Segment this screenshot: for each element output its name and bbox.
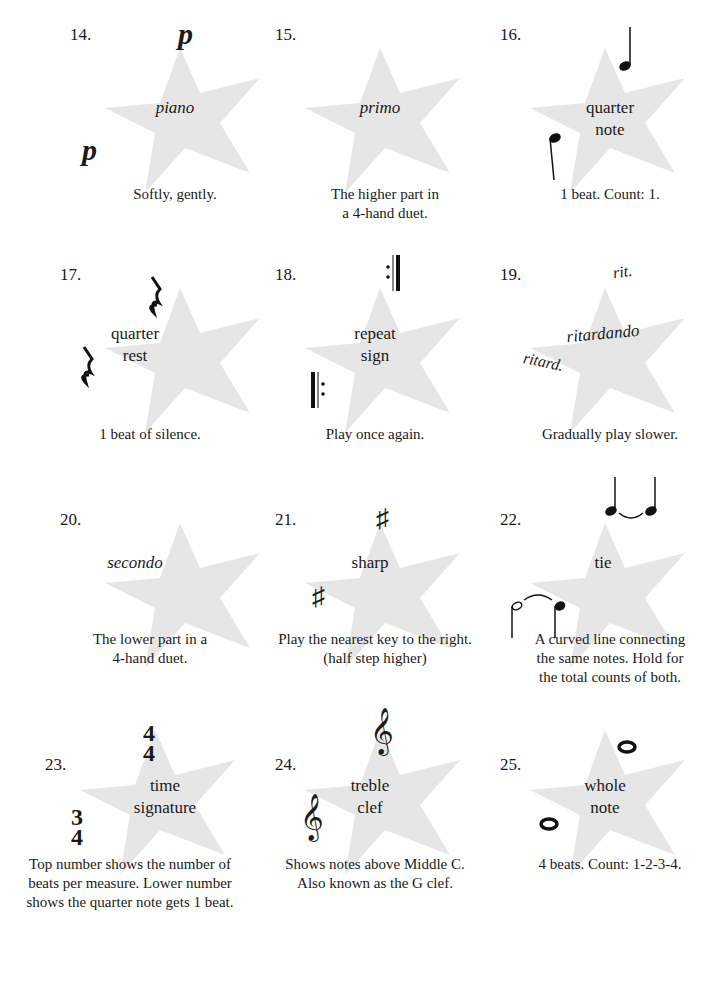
tie-quarter-notes-icon xyxy=(605,475,665,520)
item-number: 20. xyxy=(60,510,81,530)
description: Top number shows the number ofbeats per … xyxy=(0,855,260,912)
item-number: 21. xyxy=(275,510,296,530)
card-ritardando: 19. rit. ritard. ritardando Gradually pl… xyxy=(495,265,719,500)
treble-clef-icon: 𝄞 xyxy=(370,707,394,754)
item-number: 24. xyxy=(275,755,296,775)
description: Softly, gently. xyxy=(60,185,290,204)
description: Play the nearest key to the right.(half … xyxy=(260,630,490,668)
item-number: 16. xyxy=(500,25,521,45)
item-number: 14. xyxy=(70,25,91,45)
star-shape xyxy=(300,43,470,203)
star-shape xyxy=(100,43,270,203)
item-number: 19. xyxy=(500,265,521,285)
term: wholenote xyxy=(545,775,665,819)
piano-dynamic-icon: p xyxy=(82,133,97,167)
card-primo: 15. primo The higher part ina 4-hand due… xyxy=(270,25,500,260)
term: quarternote xyxy=(550,97,670,141)
time-signature-4-4-icon: 44 xyxy=(143,723,155,763)
card-whole-note: 25. wholenote 4 beats. Count: 1-2-3-4. xyxy=(495,755,719,981)
description: A curved line connectingthe same notes. … xyxy=(495,630,719,687)
term: secondo xyxy=(75,552,195,574)
card-repeat-sign: 18. repeatsign Play once again. xyxy=(270,265,500,500)
rit-marking: rit. xyxy=(612,262,633,282)
term: repeatsign xyxy=(315,323,435,367)
whole-note-icon xyxy=(617,740,637,754)
end-repeat-icon xyxy=(385,253,403,293)
item-number: 23. xyxy=(45,755,66,775)
card-tie: 22. tie A curved line connectingthe same… xyxy=(495,510,719,745)
description: The higher part ina 4-hand duet. xyxy=(270,185,500,223)
description: 4 beats. Count: 1-2-3-4. xyxy=(495,855,719,874)
item-number: 25. xyxy=(500,755,521,775)
quarter-rest-icon xyxy=(148,275,164,319)
card-treble-clef: 24. 𝄞 𝄞 trebleclef Shows notes above Mid… xyxy=(270,755,500,981)
term: sharp xyxy=(310,552,430,574)
term: trebleclef xyxy=(310,775,430,819)
term: timesignature xyxy=(105,775,225,819)
description: 1 beat. Count: 1. xyxy=(495,185,719,204)
term: piano xyxy=(115,97,235,119)
term: quarterrest xyxy=(75,323,195,367)
card-secondo: 20. secondo The lower part in a4-hand du… xyxy=(60,510,290,745)
description: Play once again. xyxy=(260,425,490,444)
sharp-icon: ♯ xyxy=(376,504,389,534)
card-piano: 14. p p piano Softly, gently. xyxy=(60,25,290,260)
quarter-note-icon xyxy=(615,25,635,75)
description: The lower part in a4-hand duet. xyxy=(35,630,265,668)
item-number: 22. xyxy=(500,510,521,530)
item-number: 18. xyxy=(275,265,296,285)
term: primo xyxy=(320,97,440,119)
start-repeat-icon xyxy=(310,370,328,410)
sharp-icon: ♯ xyxy=(312,582,325,612)
term: tie xyxy=(543,552,663,574)
time-signature-3-4-icon: 34 xyxy=(71,807,83,847)
description: 1 beat of silence. xyxy=(35,425,265,444)
item-number: 17. xyxy=(60,265,81,285)
description: Gradually play slower. xyxy=(495,425,719,444)
description: Shows notes above Middle C.Also known as… xyxy=(260,855,490,893)
item-number: 15. xyxy=(275,25,296,45)
piano-dynamic-icon: p xyxy=(178,17,193,51)
card-time-signature: 23. 44 34 timesignature Top number shows… xyxy=(45,755,275,981)
whole-note-icon xyxy=(539,817,559,831)
card-quarter-note: 16. quarternote 1 beat. Count: 1. xyxy=(495,25,719,260)
card-quarter-rest: 17. quarterrest 1 beat of silence. xyxy=(60,265,290,500)
